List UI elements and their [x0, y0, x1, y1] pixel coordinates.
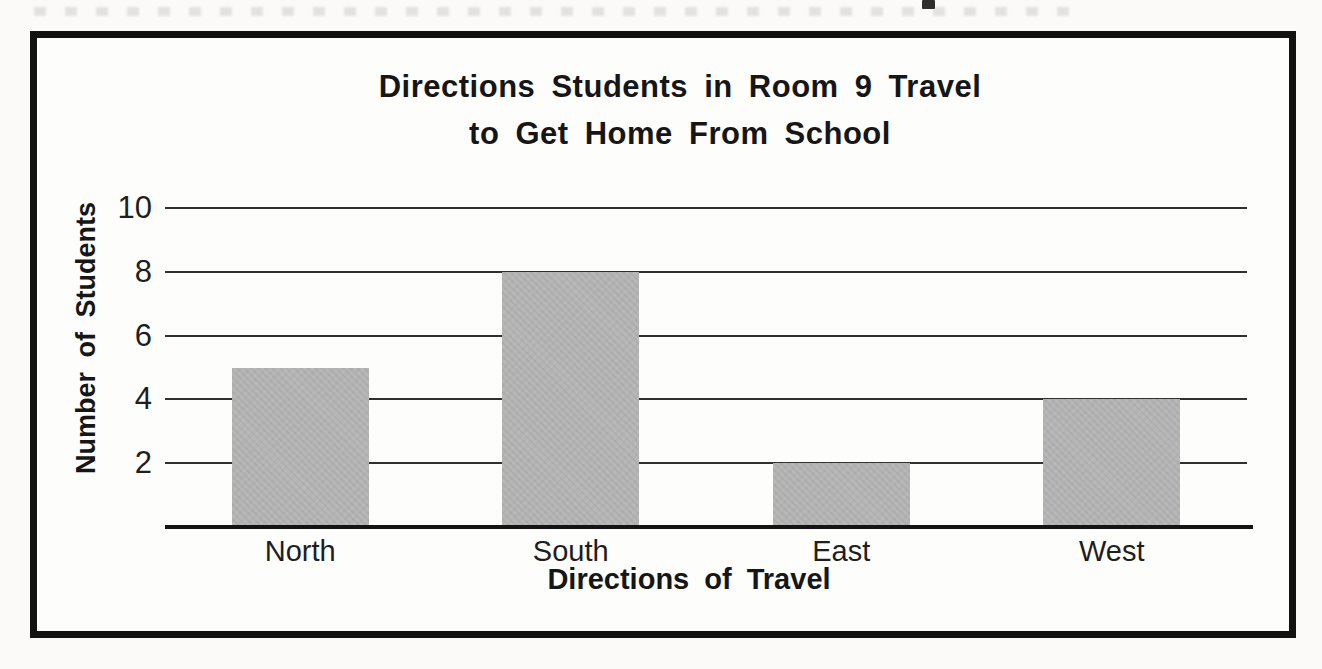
chart-title-line-2: to Get Home From School: [200, 110, 1160, 157]
bar-north: [232, 368, 369, 528]
x-axis-title: Directions of Travel: [148, 563, 1230, 596]
bar-east: [773, 463, 910, 527]
gridline-y6: [165, 335, 1247, 337]
gridline-y8: [165, 271, 1247, 273]
y-tick-label-8: 8: [92, 254, 152, 290]
scan-artifact-speck: [922, 0, 935, 9]
bar-south: [502, 272, 639, 527]
y-tick-label-4: 4: [92, 381, 152, 417]
chart-title: Directions Students in Room 9 Travel to …: [200, 63, 1160, 157]
chart-title-line-1: Directions Students in Room 9 Travel: [200, 63, 1160, 110]
x-axis-baseline: [165, 525, 1253, 529]
y-tick-label-10: 10: [92, 190, 152, 226]
y-tick-label-2: 2: [92, 445, 152, 481]
y-tick-label-6: 6: [92, 318, 152, 354]
bar-west: [1043, 399, 1180, 527]
scan-artifact-band: [34, 7, 1074, 16]
gridline-y10: [165, 207, 1247, 209]
